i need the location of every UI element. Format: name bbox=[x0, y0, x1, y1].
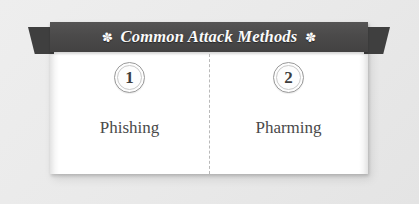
method-column-1: 1 Phishing bbox=[50, 54, 209, 174]
title-ribbon: ✽ Common Attack Methods ✽ bbox=[28, 22, 390, 54]
diagram-canvas: ✽ Common Attack Methods ✽ 1 Phishing 2 P… bbox=[0, 0, 419, 204]
page-title: Common Attack Methods bbox=[121, 27, 298, 47]
method-label-1: Phishing bbox=[100, 118, 160, 138]
method-column-2: 2 Pharming bbox=[209, 54, 368, 174]
step-number: 1 bbox=[125, 69, 134, 86]
fleuron-ornament-icon: ✽ bbox=[100, 29, 113, 44]
title-banner: ✽ Common Attack Methods ✽ bbox=[50, 22, 368, 52]
step-badge-1: 1 bbox=[114, 62, 145, 93]
step-badge-2: 2 bbox=[273, 62, 304, 93]
methods-columns: 1 Phishing 2 Pharming bbox=[50, 54, 368, 174]
column-divider bbox=[209, 54, 210, 174]
fleuron-ornament-icon: ✽ bbox=[304, 29, 317, 44]
method-label-2: Pharming bbox=[255, 118, 321, 138]
step-number: 2 bbox=[284, 69, 293, 86]
